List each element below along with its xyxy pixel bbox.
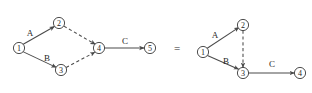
node-5-left-label: 5 [148,44,152,53]
node-2-left[interactable]: 2 [53,17,64,28]
node-4-left-label: 4 [97,44,101,53]
edge-1-to-3-left [23,52,56,68]
node-3-left-label: 3 [59,66,63,75]
node-3-left[interactable]: 3 [55,64,66,75]
edge-3-to-4-left [66,52,95,67]
edge-label-c-right: C [269,59,275,69]
left-graph: A B C 1 2 3 4 [13,17,155,75]
node-4-right[interactable]: 4 [294,67,305,78]
edge-2-to-4-left [64,26,95,44]
node-3-right-label: 3 [241,69,245,78]
equals-sign: = [174,42,180,54]
node-4-right-label: 4 [298,69,302,78]
edge-label-c-left: C [122,36,128,46]
node-5-left[interactable]: 5 [144,42,155,53]
left-graph-edges [23,26,144,67]
edge-label-a-left: A [27,28,34,38]
right-graph-edges [207,27,294,73]
node-4-left[interactable]: 4 [93,42,104,53]
graph-equivalence-svg: A B C 1 2 3 4 [0,0,312,93]
node-1-right-label: 1 [201,48,205,57]
node-2-left-label: 2 [57,19,61,28]
node-1-right[interactable]: 1 [197,46,208,57]
edge-label-b-right: B [223,56,229,66]
edge-label-a-right: A [212,30,219,40]
left-graph-nodes: 1 2 3 4 5 [13,17,155,75]
node-1-left[interactable]: 1 [13,42,24,53]
right-graph: A B C 1 2 3 4 [197,19,305,78]
right-graph-nodes: 1 2 3 4 [197,19,305,78]
node-2-right-label: 2 [241,21,245,30]
diagram-canvas: A B C 1 2 3 4 [0,0,312,93]
node-1-left-label: 1 [17,44,21,53]
edge-label-b-left: B [44,53,50,63]
node-2-right[interactable]: 2 [237,19,248,30]
node-3-right[interactable]: 3 [237,67,248,78]
